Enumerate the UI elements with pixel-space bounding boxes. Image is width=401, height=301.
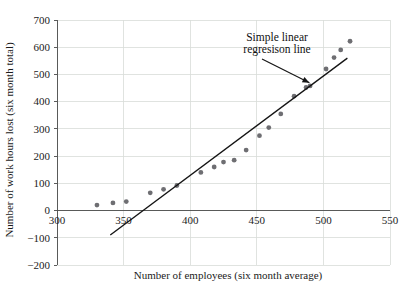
y-tick-label: 300 — [34, 123, 51, 135]
data-point — [111, 201, 116, 206]
data-point — [212, 165, 217, 170]
scatter-plot-figure: 300350400450500550 −200−1000100200300400… — [0, 0, 401, 301]
data-point — [244, 148, 249, 153]
callout-line-2: regresison line — [243, 43, 310, 56]
y-tick-label: 0 — [45, 204, 51, 216]
x-axis-tick-labels: 300350400450500550 — [49, 214, 399, 226]
x-tick-label: 350 — [115, 214, 132, 226]
x-axis-title: Number of employees (six month average) — [134, 269, 323, 282]
data-point — [161, 187, 166, 192]
data-point — [95, 203, 100, 208]
x-tick-label: 500 — [315, 214, 332, 226]
regression-line-path — [110, 58, 347, 235]
regression-line-callout: Simple linearregresison line — [243, 31, 310, 83]
regression-line — [110, 58, 347, 235]
x-tick-label: 450 — [249, 214, 266, 226]
data-point — [221, 160, 226, 165]
data-point — [338, 48, 343, 53]
data-point — [348, 39, 353, 44]
data-point — [278, 112, 283, 117]
y-tick-label: 500 — [34, 68, 51, 80]
data-point — [266, 125, 271, 130]
data-point — [232, 158, 237, 163]
y-tick-label: 400 — [34, 95, 51, 107]
grid-lines — [57, 20, 390, 265]
data-point — [148, 190, 153, 195]
y-tick-label: −100 — [27, 232, 50, 244]
y-tick-label: −200 — [27, 259, 50, 271]
y-tick-label: 600 — [34, 41, 51, 53]
data-point — [324, 67, 329, 72]
callout-arrow-shaft — [262, 59, 309, 83]
y-axis-title: Number of work hours lost (six month tot… — [3, 42, 16, 238]
x-tick-label: 550 — [382, 214, 399, 226]
y-tick-label: 200 — [34, 150, 51, 162]
chart-canvas: 300350400450500550 −200−1000100200300400… — [0, 0, 401, 301]
x-tick-label: 300 — [49, 214, 66, 226]
data-points — [95, 39, 353, 208]
data-point — [198, 170, 203, 175]
axis-lines — [57, 20, 390, 265]
data-point — [124, 199, 129, 204]
data-point — [332, 55, 337, 60]
y-axis-tick-labels: −200−1000100200300400500600700 — [27, 14, 50, 271]
data-point — [257, 133, 262, 138]
tick-marks — [54, 20, 58, 265]
y-tick-label: 700 — [34, 14, 51, 26]
x-tick-label: 400 — [182, 214, 199, 226]
y-tick-label: 100 — [34, 177, 51, 189]
